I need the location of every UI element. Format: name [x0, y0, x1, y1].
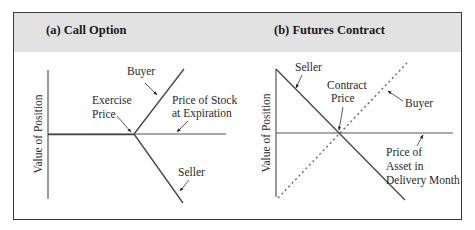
panel-b-contract-label-1: Contract — [327, 79, 367, 91]
panel-a-x-axis-arrow — [177, 121, 188, 132]
panel-b-contract-arrow — [339, 107, 343, 130]
panel-b-buyer-arrow — [388, 91, 403, 101]
panel-b-contract-label-2: Price — [331, 92, 355, 104]
panel-a-seller-line — [134, 134, 183, 203]
panel-a-exercise-label-2: Price — [92, 108, 116, 120]
panel-a-seller-arrow — [180, 180, 189, 191]
panel-b-seller-arrow — [296, 75, 302, 88]
panel-b-x-axis-arrow — [417, 135, 423, 146]
panel-a-exercise-label-1: Exercise — [92, 94, 132, 106]
panel-a-buyer-arrow — [145, 83, 157, 95]
panel-b-x-label-2: Asset in — [386, 160, 424, 172]
panel-b-x-label-3: Delivery Month — [386, 174, 460, 187]
panel-a-call-option: Value of Position Buyer Exercise Price P… — [32, 65, 237, 203]
panel-a-x-label-1: Price of Stock — [172, 94, 237, 106]
panel-a-exercise-arrow — [117, 116, 131, 132]
panel-a-x-label-2: at Expiration — [172, 107, 232, 120]
panel-a-buyer-label: Buyer — [127, 65, 155, 78]
panel-b-y-axis-label: Value of Position — [260, 93, 272, 172]
panel-b-buyer-label: Buyer — [405, 97, 433, 110]
payoff-diagrams: Value of Position Buyer Exercise Price P… — [0, 0, 475, 230]
panel-b-seller-label: Seller — [295, 61, 322, 73]
panel-b-x-label-1: Price of — [386, 146, 422, 158]
panel-a-y-axis-label: Value of Position — [32, 94, 44, 173]
panel-a-seller-label: Seller — [178, 166, 205, 178]
panel-b-futures-contract: Value of Position Seller Contract Price … — [260, 61, 460, 200]
